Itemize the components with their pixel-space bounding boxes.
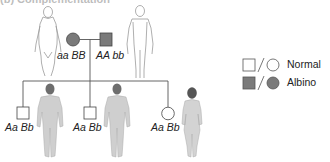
parent-male-genotype: AA bb [96, 49, 124, 61]
legend-normal-label: Normal [287, 58, 321, 70]
child-2-male-figure [104, 84, 130, 158]
child-1-normal-male-symbol [17, 107, 29, 119]
child-3-genotype: Aa Bb [151, 121, 180, 133]
parent-female-albino-symbol [67, 33, 80, 46]
legend-normal-symbols [243, 58, 279, 72]
pedigree-diagram: (b) Complementation [0, 0, 330, 162]
child-3-female-figure [182, 87, 202, 157]
parent-male-figure [127, 6, 153, 79]
child-2-genotype: Aa Bb [73, 121, 102, 133]
parent-male-albino-symbol [100, 33, 112, 46]
child-1-male-figure [37, 84, 63, 158]
legend-albino-label: Albino [287, 76, 316, 88]
legend-albino-symbols [243, 76, 279, 90]
parent-female-figure [35, 7, 61, 77]
child-2-normal-male-symbol [84, 107, 96, 119]
child-1-genotype: Aa Bb [5, 121, 34, 133]
child-3-normal-female-symbol [162, 107, 175, 120]
parent-female-genotype: aa BB [57, 49, 86, 61]
